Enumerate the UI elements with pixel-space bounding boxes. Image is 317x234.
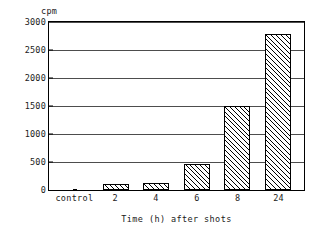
y-axis-tick-label: 1000 [25, 130, 49, 139]
bar [103, 184, 129, 190]
bar [265, 34, 291, 190]
x-axis-tick-label: 24 [258, 193, 299, 204]
y-axis-tick: 1500 [25, 102, 49, 111]
y-axis-tick-label: 3000 [25, 18, 49, 27]
y-axis-tick: 2500 [25, 46, 49, 55]
bar-slot [217, 22, 258, 190]
bar-slot [136, 22, 177, 190]
x-axis-tick-label: control [54, 193, 95, 204]
y-axis-tick-label: 500 [30, 158, 49, 167]
x-axis-tick-label: 6 [176, 193, 217, 204]
y-axis-tick-label: 2500 [25, 46, 49, 55]
x-axis-tick-labels: control246824 [48, 193, 305, 204]
x-axis-tick-label: 8 [217, 193, 258, 204]
y-axis-tick: 1000 [25, 130, 49, 139]
bar-slot [258, 22, 299, 190]
y-axis-tick-label: 2000 [25, 74, 49, 83]
y-axis-unit-label: cpm [41, 6, 57, 16]
bar [73, 189, 77, 190]
bar-slot [177, 22, 218, 190]
y-axis-tick-label: 1500 [25, 102, 49, 111]
x-axis-title: Time (h) after shots [48, 214, 305, 224]
bars-layer [49, 22, 304, 190]
x-axis-tick-label: 4 [136, 193, 177, 204]
bar [184, 164, 210, 190]
plot-area: 300025002000150010005000 [48, 21, 305, 191]
bar [143, 183, 169, 190]
y-axis-tick: 2000 [25, 74, 49, 83]
y-axis-tick: 3000 [25, 18, 49, 27]
bar-chart: cpm 300025002000150010005000 control2468… [0, 0, 317, 234]
x-axis-tick-label: 2 [95, 193, 136, 204]
bar-slot [55, 22, 96, 190]
bar [224, 106, 250, 190]
y-axis-tick: 500 [30, 158, 49, 167]
bar-slot [96, 22, 137, 190]
